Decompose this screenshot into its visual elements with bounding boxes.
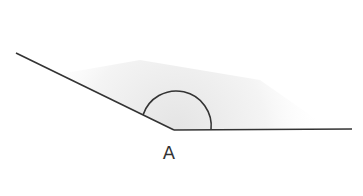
angle-diagram: A — [0, 0, 363, 196]
right-ray — [174, 129, 352, 130]
vertex-label: A — [163, 142, 176, 163]
